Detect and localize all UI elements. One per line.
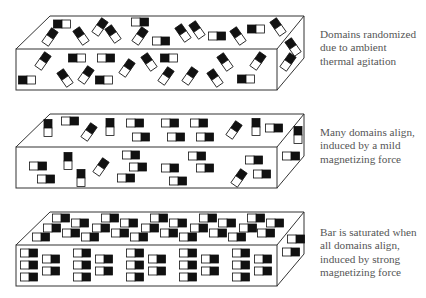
magnetic-domain <box>43 255 60 263</box>
magnetic-domain <box>96 267 113 275</box>
caption-random: Domains randomized due to ambient therma… <box>320 28 416 68</box>
magnetic-domain <box>62 117 79 125</box>
magnetic-domain <box>42 28 58 47</box>
magnetic-domain <box>21 273 38 281</box>
magnetic-domain <box>252 119 260 136</box>
magnetic-domain <box>197 164 214 172</box>
magnetic-domain <box>73 27 89 46</box>
caption-partial: Many domains align, induced by a mild ma… <box>320 126 415 166</box>
magnetic-domain <box>132 27 148 46</box>
magnetic-domain <box>54 20 71 28</box>
magnetic-domain <box>102 214 119 222</box>
magnetic-domain <box>64 153 72 170</box>
magnetic-domain <box>266 124 283 132</box>
magnetic-domain <box>127 261 144 269</box>
magnetic-domain <box>254 170 271 178</box>
magnetic-domain <box>207 69 223 88</box>
magnetic-domain <box>82 233 99 241</box>
magnetic-domain <box>197 133 214 141</box>
magnetic-domain <box>77 170 85 187</box>
magnetic-domain <box>231 169 247 188</box>
panel-partially-aligned-domains <box>16 114 304 188</box>
magnetic-domain <box>38 175 55 183</box>
magnetic-domain <box>96 255 113 263</box>
caption-line: Domains randomized <box>320 28 416 41</box>
magnetic-domain <box>119 59 135 78</box>
magnetic-domain <box>112 229 129 237</box>
magnetic-domain <box>219 219 236 227</box>
magnetic-domain <box>270 18 286 37</box>
magnetic-domain <box>170 219 187 227</box>
magnetic-domain <box>180 249 197 257</box>
magnetic-domain <box>81 123 97 142</box>
magnetic-domain <box>132 18 149 26</box>
magnetic-domain <box>248 214 265 222</box>
magnetic-domain <box>127 119 144 127</box>
magnetic-domain <box>118 174 135 182</box>
panel-random-domains <box>16 16 304 90</box>
magnetic-domain <box>21 249 38 257</box>
magnetic-domain <box>35 52 51 71</box>
magnetic-domain <box>19 76 36 84</box>
magnetic-domain <box>130 163 147 171</box>
magnetic-domain <box>123 151 140 159</box>
caption-line: thermal agitation <box>320 55 416 68</box>
magnetic-domain <box>74 273 91 281</box>
magnetic-domain <box>142 224 159 232</box>
magnetic-domain <box>189 21 205 40</box>
caption-line: magnetizing force <box>320 266 417 279</box>
magnetic-domain <box>255 267 272 275</box>
magnetic-domain <box>72 219 89 227</box>
magnetic-domain <box>96 76 113 84</box>
magnetic-domain <box>74 261 91 269</box>
caption-line: all domains align, <box>320 239 417 252</box>
magnetic-domain <box>93 158 109 177</box>
magnetic-domain <box>233 249 250 257</box>
magnetic-domain <box>98 54 115 62</box>
magnetic-domain <box>161 229 178 237</box>
magnetic-domain <box>30 162 47 170</box>
magnetic-domain <box>182 67 198 86</box>
magnetic-domain <box>153 37 170 45</box>
magnetic-domain <box>162 164 179 172</box>
magnetic-domain <box>133 133 150 141</box>
magnetic-domain <box>168 133 185 141</box>
caption-line: Many domains align, <box>320 126 415 139</box>
magnetic-domain <box>285 38 301 57</box>
magnetic-domain <box>280 53 296 72</box>
magnetic-domain <box>238 75 255 83</box>
magnetic-domain <box>162 119 179 127</box>
magnetic-domain <box>149 255 166 263</box>
magnetic-domain <box>226 121 242 140</box>
magnetic-domain <box>189 152 206 160</box>
magnetic-domain <box>175 24 191 43</box>
magnetic-domain <box>267 219 284 227</box>
magnetic-domain <box>151 214 168 222</box>
magnetic-domain <box>141 53 157 72</box>
magnetic-domain <box>127 273 144 281</box>
caption-line: magnetizing force <box>320 153 415 166</box>
magnetic-domain <box>78 66 94 85</box>
magnetic-domain <box>92 18 108 37</box>
magnetic-domain <box>229 233 246 241</box>
caption-line: Bar is saturated when <box>320 226 417 239</box>
magnetic-domain <box>106 119 114 136</box>
magnetic-domain <box>44 224 61 232</box>
magnetic-domain <box>258 229 275 237</box>
magnetic-domain <box>191 224 208 232</box>
magnetic-domain <box>233 273 250 281</box>
magnetic-domain <box>217 53 233 72</box>
magnetic-domain <box>121 219 138 227</box>
magnetic-domain <box>288 235 305 243</box>
magnetic-domain <box>230 27 246 46</box>
panel-saturated-domains <box>16 212 305 286</box>
magnetic-domain <box>202 267 219 275</box>
caption-line: due to ambient <box>320 41 416 54</box>
magnetic-domain <box>161 54 178 62</box>
magnetic-domain <box>43 267 60 275</box>
magnetic-domain <box>283 248 300 256</box>
magnetic-domain <box>180 273 197 281</box>
magnetic-domain <box>74 249 91 257</box>
magnetic-domain <box>191 119 208 127</box>
magnetic-domain <box>44 120 52 137</box>
